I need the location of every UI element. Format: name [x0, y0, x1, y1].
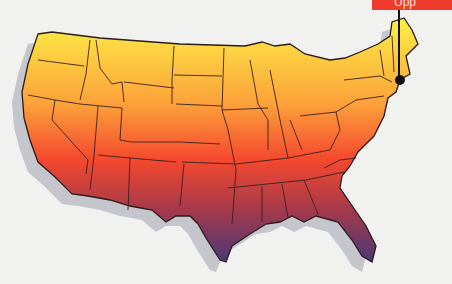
marker-label[interactable]: Upp	[372, 0, 452, 10]
us-landmass	[22, 18, 418, 262]
marker-dot[interactable]	[395, 75, 405, 85]
